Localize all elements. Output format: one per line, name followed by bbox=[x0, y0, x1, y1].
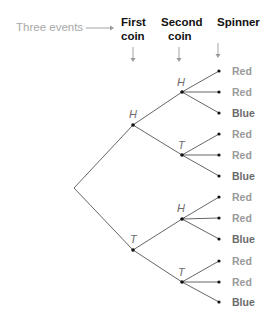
spinner-outcome: Red bbox=[232, 149, 252, 161]
tree-diagram: Three events First coin Second coin Spin… bbox=[0, 0, 270, 323]
down-arrow-icon bbox=[131, 47, 136, 62]
tree-edges bbox=[74, 71, 219, 302]
spinner-outcome: Blue bbox=[232, 107, 255, 119]
first-coin-header-line2: coin bbox=[121, 30, 145, 42]
spinner-header: Spinner bbox=[217, 16, 260, 28]
spinner-outcome: Red bbox=[232, 65, 252, 77]
spinner-outcome: Red bbox=[232, 255, 252, 267]
second-coin-tails-label: T bbox=[178, 266, 186, 278]
spinner-outcome: Red bbox=[232, 128, 252, 140]
spinner-outcome: Blue bbox=[232, 233, 255, 245]
down-arrow-icon bbox=[177, 47, 182, 62]
second-coin-heads-label: H bbox=[177, 202, 185, 214]
second-coin-header-line1: Second bbox=[161, 16, 203, 28]
down-arrow-icon bbox=[216, 43, 221, 58]
second-coin-tails-label: T bbox=[178, 139, 186, 151]
spinner-outcome: Blue bbox=[232, 296, 255, 308]
first-coin-tails-label: T bbox=[130, 233, 138, 245]
three-events-label: Three events bbox=[16, 21, 83, 33]
second-coin-header-line2: coin bbox=[168, 30, 192, 42]
lead-arrow-icon bbox=[86, 26, 114, 31]
second-coin-heads-label: H bbox=[177, 76, 185, 88]
spinner-outcome: Red bbox=[232, 212, 252, 224]
tree-nodes bbox=[131, 69, 220, 303]
spinner-outcome: Red bbox=[232, 86, 252, 98]
spinner-outcome: Blue bbox=[232, 170, 255, 182]
spinner-outcome: Red bbox=[232, 276, 252, 288]
spinner-outcome: Red bbox=[232, 191, 252, 203]
first-coin-header-line1: First bbox=[121, 16, 146, 28]
first-coin-heads-label: H bbox=[129, 108, 137, 120]
